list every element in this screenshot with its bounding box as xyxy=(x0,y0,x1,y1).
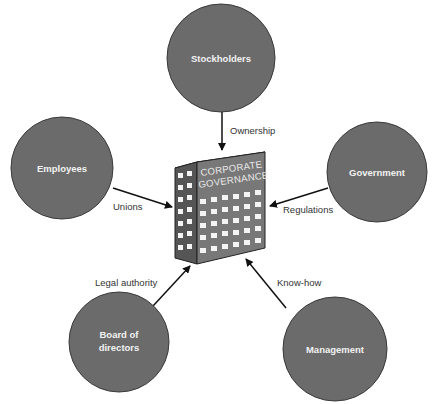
node-label-government: Government xyxy=(349,167,406,178)
corporate-governance-diagram: Stockholders Employees Government Board … xyxy=(0,0,435,404)
node-label-management: Management xyxy=(306,344,365,355)
node-government: Government xyxy=(327,122,427,222)
edge-board xyxy=(153,266,190,306)
node-label-stockholders: Stockholders xyxy=(191,53,251,64)
node-board: Board of directors xyxy=(69,292,169,392)
node-stockholders: Stockholders xyxy=(167,4,275,112)
office-building-icon: CORPORATE GOVERNANCE xyxy=(175,152,269,264)
node-employees: Employees xyxy=(11,117,113,219)
node-label-board-line2: directors xyxy=(99,342,140,353)
node-label-board-line1: Board of xyxy=(99,329,139,340)
node-management: Management xyxy=(283,297,387,401)
edge-label-know-how: Know-how xyxy=(277,277,321,288)
edge-label-ownership: Ownership xyxy=(230,125,275,136)
edge-label-legal-authority: Legal authority xyxy=(95,277,158,288)
node-label-employees: Employees xyxy=(37,163,87,174)
edge-label-unions: Unions xyxy=(113,201,143,212)
edge-label-regulations: Regulations xyxy=(283,204,333,215)
